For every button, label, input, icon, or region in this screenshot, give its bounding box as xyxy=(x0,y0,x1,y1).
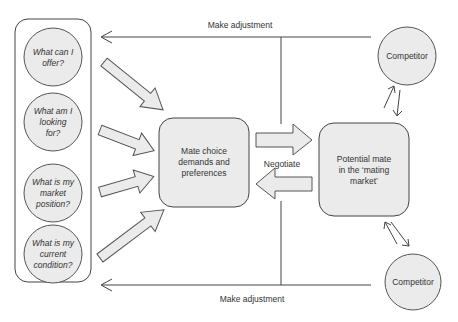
question-text-line: What can I xyxy=(33,47,74,57)
block-arrow-icon xyxy=(93,200,171,267)
negotiate-left-arrow-icon xyxy=(256,168,312,199)
competitor-top: Competitor xyxy=(378,27,436,85)
competitor-top-exchange-arrows-icon xyxy=(384,86,402,116)
question-text-line: condition? xyxy=(34,260,73,270)
block-arrow-icon xyxy=(96,119,159,162)
question-text-line: for? xyxy=(46,128,61,138)
question-text-line: position? xyxy=(35,199,70,209)
question-text-line: What am I xyxy=(34,106,73,116)
question-text-line: offer? xyxy=(42,58,64,68)
make-adjustment-top-label: Make adjustment xyxy=(208,20,273,30)
potential-mate-text-line: in the ‘mating xyxy=(339,165,390,175)
question-text-line: What is my xyxy=(32,238,75,248)
competitor-bottom-exchange-arrows-icon xyxy=(384,222,409,246)
feedback-top: Make adjustment xyxy=(101,20,371,124)
question-text-line: current xyxy=(40,249,67,259)
negotiate-label: Negotiate xyxy=(264,159,301,169)
question-text-line: looking xyxy=(40,117,67,127)
negotiate-right-arrow-icon xyxy=(256,124,312,155)
potential-mate-box: Potential mate in the ‘mating market’ xyxy=(319,123,409,216)
question-what-can-i-offer: What can I offer? xyxy=(24,28,82,86)
question-text-line: What is my xyxy=(32,177,75,187)
potential-mate-text-line: Potential mate xyxy=(337,154,392,164)
question-circle xyxy=(24,28,82,86)
mate-choice-diagram: Make adjustment Make adjustment What can… xyxy=(0,0,458,322)
competitor-label: Competitor xyxy=(392,277,434,287)
block-arrow-icon xyxy=(97,165,157,204)
mate-choice-text-line: preferences xyxy=(182,168,227,178)
competitor-label: Competitor xyxy=(386,51,428,61)
question-what-am-i-looking-for: What am I looking for? xyxy=(24,93,82,151)
potential-mate-text-line: market’ xyxy=(350,176,378,186)
mate-choice-text-line: Mate choice xyxy=(181,146,227,156)
mate-choice-text-line: demands and xyxy=(178,157,230,167)
question-current-condition: What is my current condition? xyxy=(24,225,82,283)
question-text-line: market xyxy=(40,188,67,198)
block-arrow-icon xyxy=(96,53,170,119)
make-adjustment-bottom-label: Make adjustment xyxy=(220,294,285,304)
question-market-position: What is my market position? xyxy=(24,164,82,222)
feedback-bottom: Make adjustment xyxy=(101,201,371,304)
competitor-bottom: Competitor xyxy=(385,254,441,310)
mate-choice-box: Mate choice demands and preferences xyxy=(159,118,249,207)
